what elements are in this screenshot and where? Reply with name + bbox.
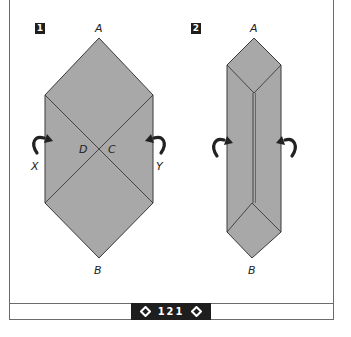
diamond-left-icon[interactable] [140,306,151,317]
step-2-figure [214,38,296,258]
step-2-label-b: B [248,265,256,276]
diamond-right-icon[interactable] [191,306,202,317]
step-1-badge: 1 [35,23,45,34]
step-1-label-a: A [95,23,103,34]
step-1-label-c: C [108,144,116,155]
step-1-label-x: X [31,161,39,172]
folding-diagram [0,0,351,337]
step-2-badge: 2 [191,23,201,34]
page-number-bar: 121 [131,303,211,320]
step-2-label-a: A [250,23,258,34]
page-number: 121 [158,305,185,318]
step-1-figure [34,38,165,258]
step-1-label-b: B [94,265,102,276]
step-1-label-y: Y [156,161,163,172]
step-1-label-d: D [79,144,87,155]
